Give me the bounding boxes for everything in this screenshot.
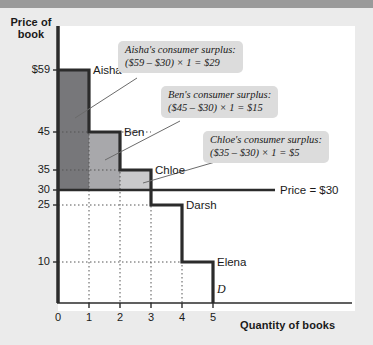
x-tick-label-1: 1 xyxy=(81,311,97,323)
y-tick-label-35: 35 xyxy=(12,163,50,175)
step-label-ben: Ben xyxy=(124,126,144,138)
y-tick-label-59: $59 xyxy=(12,63,50,75)
y-tick-label-10: 10 xyxy=(12,255,50,267)
y-axis-title: Price of book xyxy=(6,16,56,40)
step-label-darsh: Darsh xyxy=(186,199,217,211)
callout-ben-surplus: Ben's consumer surplus: ($45 – $30) × 1 … xyxy=(161,86,278,118)
callout-ben-line2: ($45 – $30) × 1 = $15 xyxy=(168,102,271,115)
y-tick-label-25: 25 xyxy=(12,198,50,210)
callout-ben-line1: Ben's consumer surplus: xyxy=(168,89,271,102)
surplus-area-ben xyxy=(89,132,120,190)
x-tick-label-0: 0 xyxy=(50,311,66,323)
callout-aisha-line2: ($59 – $30) × 1 = $29 xyxy=(125,57,236,70)
callout-chloe-surplus: Chloe's consumer surplus: ($35 – $30) × … xyxy=(203,131,329,163)
y-tick-label-45: 45 xyxy=(12,125,50,137)
x-axis-title: Quantity of books xyxy=(240,319,335,331)
x-tick-label-4: 4 xyxy=(174,311,190,323)
callout-aisha-surplus: Aisha's consumer surplus: ($59 – $30) × … xyxy=(118,41,243,73)
surplus-area-chloe xyxy=(120,170,151,190)
y-axis-title-line1: Price of xyxy=(6,16,56,28)
step-label-elena: Elena xyxy=(217,256,246,268)
consumer-surplus-figure: Price of book Quantity of books $59 45 3… xyxy=(0,8,373,345)
callout-chloe-line1: Chloe's consumer surplus: xyxy=(210,134,322,147)
page-top-strip xyxy=(0,0,373,8)
x-tick-label-3: 3 xyxy=(143,311,159,323)
demand-curve-label: D xyxy=(217,282,226,297)
price-line-label: Price = $30 xyxy=(280,184,339,196)
x-tick-label-5: 5 xyxy=(205,311,221,323)
y-tick-label-30: 30 xyxy=(12,183,50,195)
x-tick-label-2: 2 xyxy=(112,311,128,323)
y-axis-title-line2: book xyxy=(6,28,56,40)
surplus-area-aisha xyxy=(58,70,89,190)
step-label-chloe: Chloe xyxy=(155,164,185,176)
callout-chloe-line2: ($35 – $30) × 1 = $5 xyxy=(210,147,322,160)
callout-aisha-line1: Aisha's consumer surplus: xyxy=(125,44,236,57)
